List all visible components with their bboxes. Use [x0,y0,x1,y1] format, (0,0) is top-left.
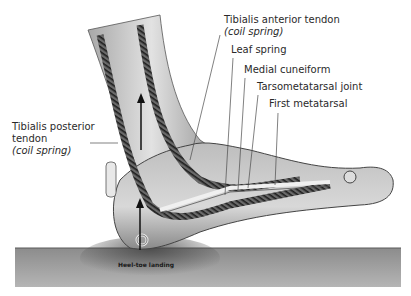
label-leaf-spring: Leaf spring [231,44,287,56]
ground-label: Heel-toe landing [118,261,174,268]
label-tarsometatarsal-joint: Tarsometatarsal joint [257,81,362,93]
label-medial-cuneiform: Medial cuneiform [244,64,330,76]
heel-bone [106,162,116,197]
foot-diagram: Tibialis anterior tendon (coil spring) L… [0,0,411,296]
ground-slab [15,236,401,287]
label-tibialis-posterior: Tibialis posterior tendon (coil spring) [12,121,95,157]
toe-joint [344,171,356,183]
label-tibialis-anterior: Tibialis anterior tendon (coil spring) [224,14,340,38]
label-first-metatarsal: First metatarsal [269,98,347,110]
